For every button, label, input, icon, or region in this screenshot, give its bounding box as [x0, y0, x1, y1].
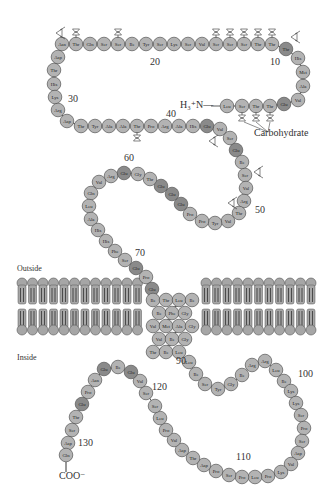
svg-text:Ser: Ser [242, 173, 249, 178]
svg-text:His: His [190, 124, 197, 129]
svg-text:Ser: Ser [227, 42, 234, 47]
residue-thr-33: Thr [74, 119, 88, 133]
svg-text:Ile: Ile [281, 379, 286, 384]
svg-text:Lys: Lys [171, 42, 178, 47]
residue-thr-12: Thr [251, 37, 265, 51]
residue-thr-11: Thr [265, 37, 279, 51]
svg-text:Glu: Glu [280, 102, 288, 107]
svg-text:Gly: Gly [188, 324, 196, 329]
svg-text:Arg: Arg [248, 363, 256, 368]
svg-text:Ile: Ile [150, 298, 155, 303]
svg-text:His: His [295, 56, 302, 61]
svg-text:Pro: Pro [148, 124, 155, 129]
residue-glu-122: Glu [124, 365, 138, 379]
residue-number-50: 50 [255, 204, 265, 215]
svg-text:Ser: Ser [69, 428, 76, 433]
lipid-head [49, 325, 59, 335]
svg-text:Asp: Asp [178, 448, 186, 453]
residue-ile-95: Ile [235, 368, 249, 382]
residue-lys-100: Lys [284, 384, 298, 398]
residue-ile-76: Ile [185, 293, 199, 307]
lipid-head [254, 325, 264, 335]
residue-val-51: Val [221, 214, 235, 228]
svg-text:Glu: Glu [148, 287, 156, 292]
svg-text:Arg: Arg [161, 124, 169, 129]
residue-val-84: Val [152, 332, 166, 346]
svg-text:Val: Val [217, 127, 224, 132]
lipid-head [91, 325, 101, 335]
svg-text:Ile: Ile [129, 42, 134, 47]
svg-text:Pro: Pro [163, 428, 170, 433]
residue-ser-92: Ser [198, 377, 212, 391]
residue-number-120: 120 [152, 381, 167, 392]
svg-text:Leu: Leu [223, 104, 231, 109]
residue-gly-83: Gly [185, 319, 199, 333]
o-glycan-icon [255, 29, 262, 38]
residue-pro-126: Pro [81, 385, 95, 399]
residue-leu-75: Leu [172, 293, 186, 307]
residue-pro-110: Pro [235, 470, 249, 484]
residue-thr-87: Thr [146, 345, 160, 359]
c-terminus-label: COO⁻ [59, 470, 85, 481]
svg-text:Val: Val [295, 98, 302, 103]
svg-text:Asn: Asn [58, 42, 66, 47]
svg-text:Ala: Ala [106, 124, 114, 129]
svg-text:Thr: Thr [269, 42, 276, 47]
lipid-head [112, 325, 122, 335]
svg-text:Asn: Asn [91, 378, 99, 383]
lipid-head [275, 325, 285, 335]
residue-number-60: 60 [124, 152, 134, 163]
svg-text:Ser: Ser [202, 382, 209, 387]
svg-text:Phe: Phe [168, 311, 175, 316]
svg-text:Gly: Gly [181, 311, 189, 316]
n-glycan-icon [291, 31, 300, 43]
svg-text:Val: Val [171, 438, 178, 443]
svg-text:Ser: Ser [122, 258, 129, 263]
svg-text:Leu: Leu [251, 475, 259, 480]
residue-ser-120: Ser [139, 386, 153, 400]
svg-text:Glu: Glu [127, 370, 135, 375]
n-glycan-icon [209, 135, 218, 147]
svg-text:Tyr: Tyr [92, 124, 99, 129]
svg-text:Val: Val [199, 42, 206, 47]
svg-text:Val: Val [225, 219, 232, 224]
residue-number-110: 110 [236, 451, 251, 462]
svg-text:Arg: Arg [240, 199, 248, 204]
residue-number-90: 90 [176, 355, 186, 366]
svg-text:Val: Val [150, 324, 157, 329]
residue-ile-73: Ile [146, 293, 160, 307]
residue-glu-127: Glu [75, 397, 89, 411]
lipid-head [306, 325, 316, 335]
residue-ser-119: Ser [148, 399, 162, 413]
lipid-head [59, 325, 69, 335]
svg-text:Met: Met [162, 324, 170, 329]
residue-ser-102: Ser [294, 408, 308, 422]
residue-ile-21: Ile [125, 37, 139, 51]
svg-text:Ala: Ala [120, 124, 128, 129]
residue-tyr-52: Tyr [208, 216, 222, 230]
svg-text:Lys: Lys [293, 401, 300, 406]
residue-pro-53: Pro [195, 214, 209, 228]
residue-ile-85: Ile [165, 332, 179, 346]
svg-text:Thr: Thr [255, 42, 262, 47]
residue-ile-77: Ile [152, 306, 166, 320]
residue-thr-128: Thr [69, 410, 83, 424]
n-glycan-icon [254, 166, 263, 178]
lipid-head [222, 325, 232, 335]
svg-text:Ser: Ser [152, 404, 159, 409]
residue-arg-39: Arg [158, 119, 172, 133]
glycophorin-diagram: LeuSerThrThrGluValAlaMetHisThrThrThrSerS… [0, 0, 333, 503]
residue-number-40: 40 [166, 108, 176, 119]
residue-asn-125: Asn [88, 373, 102, 387]
residue-ser-14: Ser [223, 37, 237, 51]
svg-text:Leu: Leu [272, 368, 280, 373]
residue-ile-88: Ile [159, 345, 173, 359]
svg-text:Glu: Glu [157, 184, 165, 189]
svg-text:Glu: Glu [232, 148, 240, 153]
svg-text:Ile: Ile [239, 160, 244, 165]
svg-text:Ser: Ser [241, 42, 248, 47]
svg-text:Ser: Ser [227, 136, 234, 141]
residue-ser-22: Ser [111, 37, 125, 51]
residue-tyr-20: Tyr [139, 37, 153, 51]
residue-glu-42: Glu [200, 119, 214, 133]
